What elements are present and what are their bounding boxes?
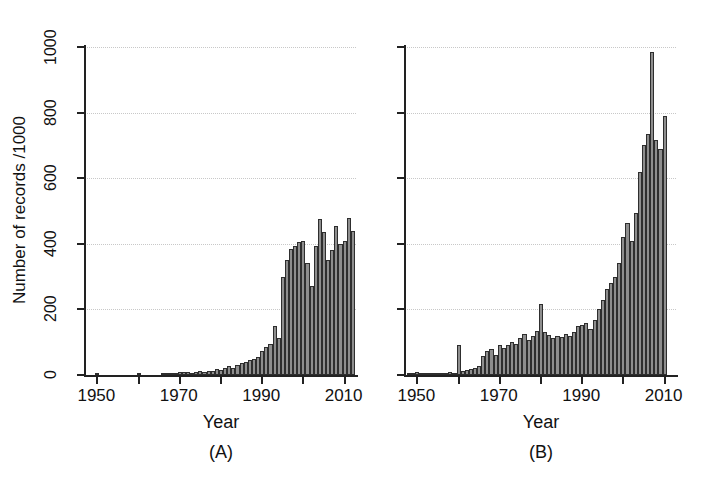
panel-caption-b: (B) bbox=[404, 442, 678, 463]
x-axis-tick-label: 2010 bbox=[645, 386, 683, 406]
x-axis-tick-label: 1970 bbox=[480, 386, 518, 406]
y-axis-tick bbox=[77, 112, 84, 114]
x-axis-tick bbox=[622, 377, 624, 384]
bar bbox=[663, 116, 667, 375]
y-axis-tick bbox=[77, 46, 84, 48]
x-axis-tick bbox=[261, 377, 263, 384]
x-axis-tick-label: 1950 bbox=[397, 386, 435, 406]
y-axis-tick bbox=[397, 243, 404, 245]
y-axis-tick-label: 800 bbox=[42, 87, 72, 139]
x-axis-tick bbox=[581, 377, 583, 384]
x-axis-tick-label: 1970 bbox=[160, 386, 198, 406]
x-axis-label-b: Year bbox=[404, 412, 678, 433]
y-axis-tick-label: 200 bbox=[42, 283, 72, 335]
x-axis-tick-label: 2010 bbox=[325, 386, 363, 406]
x-axis-tick bbox=[344, 377, 346, 384]
x-axis-label-a: Year bbox=[84, 412, 358, 433]
y-axis-tick bbox=[397, 374, 404, 376]
x-axis-tick bbox=[220, 377, 222, 384]
y-axis-tick bbox=[397, 308, 404, 310]
y-axis-tick bbox=[77, 177, 84, 179]
x-axis-tick bbox=[179, 377, 181, 384]
y-axis-tick bbox=[397, 177, 404, 179]
panel-caption-a: (A) bbox=[84, 442, 358, 463]
x-axis-tick bbox=[664, 377, 666, 384]
bars-b bbox=[405, 47, 677, 375]
figure-root: Number of records /1000 Year (A) 0200400… bbox=[0, 0, 725, 485]
y-axis-tick bbox=[77, 308, 84, 310]
x-axis-tick-label: 1950 bbox=[77, 386, 115, 406]
x-axis-tick-label: 1990 bbox=[242, 386, 280, 406]
x-axis-tick bbox=[302, 377, 304, 384]
y-axis-tick bbox=[397, 112, 404, 114]
y-axis-tick bbox=[77, 374, 84, 376]
y-axis-tick-label: 400 bbox=[42, 218, 72, 270]
y-axis-label: Number of records /1000 bbox=[0, 0, 40, 420]
x-axis-tick bbox=[138, 377, 140, 384]
x-axis-tick bbox=[416, 377, 418, 384]
x-axis-tick bbox=[540, 377, 542, 384]
bar bbox=[95, 373, 99, 375]
bar bbox=[137, 373, 141, 375]
x-axis-tick-label: 1990 bbox=[562, 386, 600, 406]
y-axis-tick-label: 0 bbox=[42, 349, 72, 401]
bar bbox=[351, 231, 355, 375]
y-axis-tick-label: 600 bbox=[42, 152, 72, 204]
y-axis-tick bbox=[397, 46, 404, 48]
x-axis-tick bbox=[96, 377, 98, 384]
x-axis-tick bbox=[499, 377, 501, 384]
y-axis-tick-label: 1000 bbox=[42, 21, 72, 73]
y-axis-tick bbox=[77, 243, 84, 245]
x-axis-tick bbox=[458, 377, 460, 384]
bars-a bbox=[85, 47, 357, 375]
